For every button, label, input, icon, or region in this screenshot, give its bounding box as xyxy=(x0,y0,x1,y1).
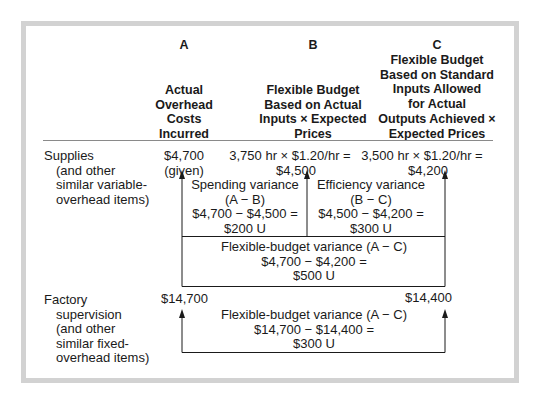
arrow-up-icon xyxy=(179,170,185,179)
arrow-up-icon xyxy=(442,309,448,318)
arrow-up-icon xyxy=(179,309,185,318)
arrow-up-icon xyxy=(304,170,310,179)
connector-lines xyxy=(0,0,541,403)
arrow-up-icon xyxy=(442,170,448,179)
